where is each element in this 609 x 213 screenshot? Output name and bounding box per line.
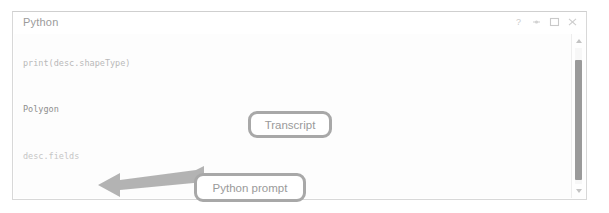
- panel-titlebar: Python ?: [13, 12, 586, 34]
- callout-python-prompt: Python prompt: [194, 173, 306, 202]
- code-lines: desc = arcpy.Describe('Fire Boundaries')…: [23, 34, 443, 195]
- scroll-up-icon[interactable]: [572, 35, 585, 47]
- panel-title: Python: [23, 16, 58, 28]
- transcript-scrollbar[interactable]: [571, 34, 585, 198]
- close-icon[interactable]: [567, 16, 578, 28]
- scrollbar-thumb[interactable]: [575, 60, 582, 180]
- callout-python-prompt-label: Python prompt: [213, 182, 288, 194]
- help-icon[interactable]: ?: [513, 16, 524, 28]
- maximize-icon[interactable]: [549, 16, 560, 28]
- svg-text:?: ?: [516, 17, 521, 27]
- code-line-output: Polygon: [23, 102, 443, 118]
- callout-transcript-label: Transcript: [265, 119, 316, 131]
- python-prompt-arrow-icon: [96, 160, 206, 198]
- code-line: print(desc.shapeType): [23, 56, 443, 72]
- python-prompt-line[interactable]: desc.fields: [23, 149, 443, 165]
- scroll-down-icon[interactable]: [572, 185, 585, 197]
- pin-icon[interactable]: [531, 16, 542, 28]
- window-controls: ?: [513, 15, 578, 29]
- callout-transcript: Transcript: [248, 111, 332, 138]
